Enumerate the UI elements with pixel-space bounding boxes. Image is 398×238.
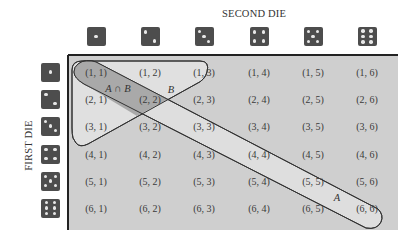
outcome-cell: (5, 5)	[302, 176, 324, 187]
event-a-label: A	[334, 192, 340, 203]
intersection-label: A ∩ B	[105, 83, 130, 94]
outcome-cell: (3, 2)	[139, 121, 161, 132]
outcome-cell: (1, 4)	[248, 67, 270, 78]
outcome-cell: (2, 4)	[248, 94, 270, 105]
grid-top-border	[68, 54, 398, 56]
outcome-cell: (3, 6)	[356, 121, 378, 132]
outcome-cell: (2, 3)	[193, 94, 215, 105]
outcome-cell: (1, 6)	[356, 67, 378, 78]
outcome-cell: (4, 1)	[85, 149, 107, 160]
outcome-cell: (4, 3)	[193, 149, 215, 160]
outcome-cell: (5, 2)	[139, 176, 161, 187]
outcome-cell: (4, 5)	[302, 149, 324, 160]
outcome-cell: (4, 4)	[248, 149, 270, 160]
outcome-cell: (6, 6)	[356, 203, 378, 214]
outcome-cell: (2, 5)	[302, 94, 324, 105]
outcome-cell: (3, 4)	[248, 121, 270, 132]
grid-left-border	[67, 55, 69, 230]
event-b-label: B	[168, 84, 174, 95]
outcome-cell: (2, 6)	[356, 94, 378, 105]
outcome-cell: (6, 2)	[139, 203, 161, 214]
outcome-cell: (3, 3)	[193, 121, 215, 132]
outcome-cell: (4, 2)	[139, 149, 161, 160]
outcome-cell: (2, 2)	[139, 94, 161, 105]
outcome-cell: (5, 1)	[85, 176, 107, 187]
outcome-cell: (2, 1)	[85, 94, 107, 105]
outcome-cell: (1, 1)	[85, 67, 107, 78]
outcome-cell: (6, 5)	[302, 203, 324, 214]
outcome-cell: (5, 3)	[193, 176, 215, 187]
outcome-cell: (4, 6)	[356, 149, 378, 160]
outcome-cell: (5, 6)	[356, 176, 378, 187]
outcome-cell: (3, 1)	[85, 121, 107, 132]
outcome-cell: (6, 3)	[193, 203, 215, 214]
outcome-cell: (3, 5)	[302, 121, 324, 132]
outcome-cell: (1, 5)	[302, 67, 324, 78]
outcome-cell: (6, 4)	[248, 203, 270, 214]
outcome-cell: (6, 1)	[85, 203, 107, 214]
outcome-cell: (1, 3)	[193, 67, 215, 78]
outcome-cell: (5, 4)	[248, 176, 270, 187]
outcome-cell: (1, 2)	[139, 67, 161, 78]
